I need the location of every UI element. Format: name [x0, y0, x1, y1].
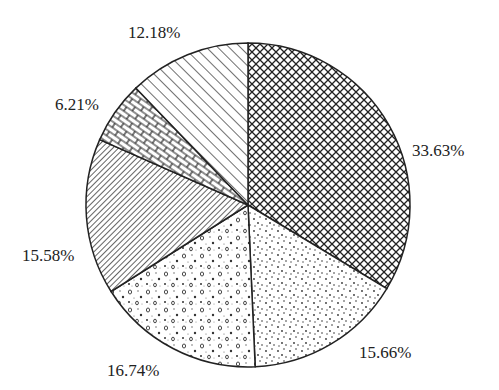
label-slice-6-21: 6.21%: [55, 96, 99, 113]
pie-slices: [86, 43, 410, 367]
label-slice-33-63: 33.63%: [412, 142, 464, 159]
label-slice-16-74: 16.74%: [107, 362, 159, 379]
pie-chart: [0, 0, 499, 390]
label-slice-15-66: 15.66%: [359, 344, 411, 361]
label-slice-15-58: 15.58%: [22, 247, 74, 264]
label-slice-12-18: 12.18%: [128, 24, 180, 41]
